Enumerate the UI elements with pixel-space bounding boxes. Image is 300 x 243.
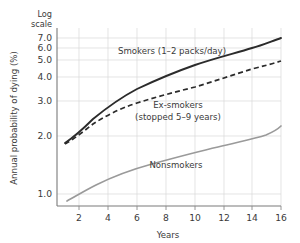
log-scale-line2: scale (31, 19, 52, 29)
chart-figure: 7.0 6.0 5.0 4.0 3.0 2.0 1.0 Log scale 2 … (0, 0, 300, 243)
y-tick-label-1: 1.0 (37, 188, 52, 199)
log-scale-note: Log scale (31, 9, 52, 29)
x-tick-label-12: 12 (218, 212, 230, 223)
x-axis-title: Years (156, 230, 180, 240)
x-tickmarks (79, 206, 281, 210)
x-tick-label-14: 14 (246, 212, 258, 223)
y-tick-labels: 7.0 6.0 5.0 4.0 3.0 2.0 1.0 (37, 32, 52, 199)
series-label-ex-smokers-line2: (stopped 5–9 years) (135, 112, 221, 122)
chart-svg: 7.0 6.0 5.0 4.0 3.0 2.0 1.0 Log scale 2 … (0, 0, 300, 243)
y-tick-label-5: 5.0 (37, 54, 52, 65)
x-tick-labels: 2 4 6 8 10 12 14 16 (76, 212, 287, 223)
log-scale-line1: Log (37, 9, 52, 19)
y-tick-label-2: 2.0 (37, 130, 52, 141)
y-tick-label-3: 3.0 (37, 95, 52, 106)
y-tick-label-4: 4.0 (37, 71, 52, 82)
x-tick-label-10: 10 (189, 212, 201, 223)
x-tick-label-2: 2 (76, 212, 82, 223)
series-label-smokers: Smokers (1–2 packs/day) (118, 46, 226, 56)
y-tick-label-6: 6.0 (37, 42, 52, 53)
x-tick-label-8: 8 (163, 212, 169, 223)
x-tick-label-16: 16 (275, 212, 287, 223)
series-label-nonsmokers: Nonsmokers (149, 160, 203, 170)
series-label-ex-smokers-line1: Ex-smokers (153, 100, 203, 110)
y-axis-title: Annual probability of dying (%) (9, 51, 19, 185)
x-tick-label-6: 6 (134, 212, 140, 223)
x-tick-label-4: 4 (105, 212, 111, 223)
